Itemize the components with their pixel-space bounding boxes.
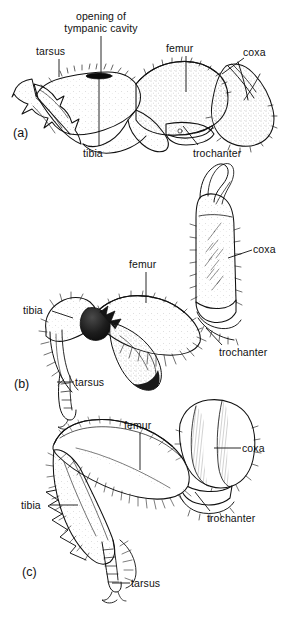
label-a-femur: femur	[166, 42, 206, 54]
label-c-trochanter: trochanter	[207, 512, 265, 524]
figure-root: opening of tympanic cavitytarsusfemurcox…	[0, 0, 287, 618]
label-c-tibia: tibia	[21, 499, 49, 511]
label-a-coxa: coxa	[243, 46, 275, 58]
label-a-trochanter: trochanter	[193, 147, 251, 159]
label-b-femur: femur	[129, 258, 169, 270]
label-b-tarsus: tarsus	[75, 376, 115, 388]
label-c-coxa: coxa	[242, 442, 274, 454]
label-b-coxa: coxa	[253, 243, 285, 255]
label-a-opening-of-tympanic-cavity: opening of tympanic cavity	[58, 10, 144, 34]
panel-letter-c: (c)	[22, 565, 37, 579]
label-a-tarsus: tarsus	[36, 45, 76, 57]
label-b-trochanter: trochanter	[219, 346, 277, 358]
label-b-tibia: tibia	[23, 304, 51, 316]
panel-b-drawing	[39, 164, 242, 430]
label-c-femur: femur	[124, 419, 164, 431]
panel-letter-a: (a)	[13, 126, 28, 140]
label-a-tibia: tibia	[83, 147, 115, 159]
label-c-tarsus: tarsus	[131, 577, 171, 589]
panel-a-drawing	[12, 57, 277, 153]
panel-letter-b: (b)	[14, 377, 29, 391]
